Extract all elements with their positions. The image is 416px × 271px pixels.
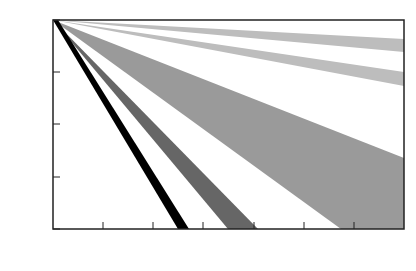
y-axis-ticks xyxy=(53,20,60,229)
chart xyxy=(0,0,416,271)
